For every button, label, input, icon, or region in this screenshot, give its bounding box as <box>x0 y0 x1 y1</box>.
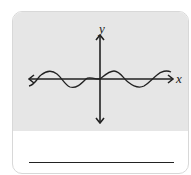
graph-card: y x <box>12 11 189 174</box>
x-axis-label: x <box>176 72 182 85</box>
answer-line[interactable] <box>29 162 174 163</box>
y-axis-label: y <box>99 22 105 35</box>
graph-svg <box>13 12 189 174</box>
